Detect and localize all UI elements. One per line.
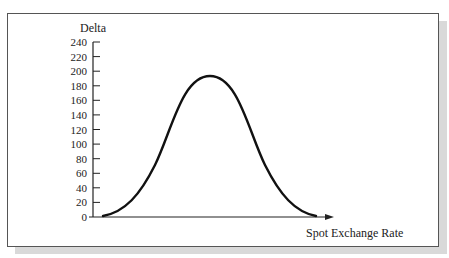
delta-curve [103,76,316,216]
y-tick-180: 180 [71,80,88,92]
y-tick-20: 20 [76,196,88,208]
y-tick-60: 60 [76,167,88,179]
y-tick-160: 160 [71,94,88,106]
y-tick-100: 100 [71,138,88,150]
y-tick-labels: 240 220 200 180 160 140 120 100 80 60 40… [71,36,88,223]
y-tick-240: 240 [71,36,88,48]
y-axis-title: Delta [80,21,107,35]
delta-chart: Delta 240 220 200 180 160 140 120 100 80… [0,0,449,258]
y-tick-120: 120 [71,124,88,136]
y-ticks [93,42,100,202]
y-tick-200: 200 [71,65,88,77]
x-axis-title: Spot Exchange Rate [306,226,403,240]
y-tick-220: 220 [71,51,88,63]
y-tick-40: 40 [76,182,88,194]
y-tick-140: 140 [71,109,88,121]
x-axis-arrow-icon [325,214,334,220]
y-tick-0: 0 [82,211,88,223]
y-tick-80: 80 [76,153,88,165]
